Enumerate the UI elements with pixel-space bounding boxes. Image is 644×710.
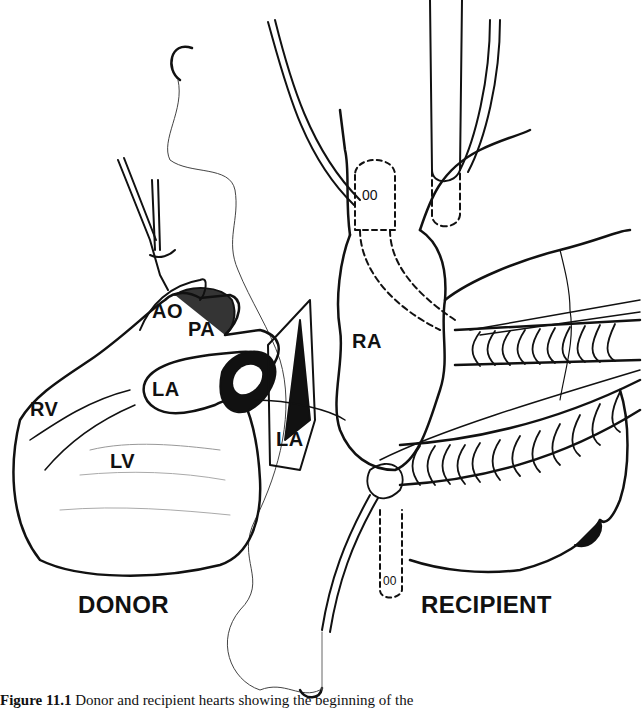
figure-caption: Figure 11.1 Donor and recipient hearts s… <box>0 692 644 709</box>
caption-text: Donor and recipient hearts showing the b… <box>75 692 413 708</box>
svg-text:00: 00 <box>383 574 397 588</box>
caption-number: Figure 11.1 <box>0 692 71 708</box>
label-donor-left-atrium: LA <box>152 378 180 401</box>
label-right-atrium: RA <box>352 330 382 353</box>
label-recipient: RECIPIENT <box>421 591 552 619</box>
label-left-ventricle: LV <box>110 450 135 473</box>
svg-text:00: 00 <box>362 187 378 203</box>
label-right-ventricle: RV <box>30 398 58 421</box>
label-donor: DONOR <box>78 591 169 619</box>
label-pulmonary-artery: PA <box>188 318 215 341</box>
label-aorta: AO <box>152 300 183 323</box>
label-recipient-left-atrium: LA <box>276 428 304 451</box>
